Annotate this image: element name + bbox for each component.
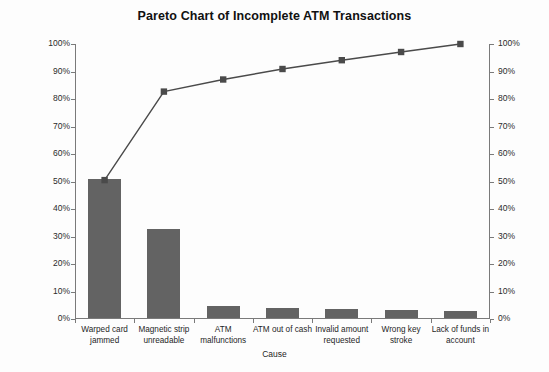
y-axis-right-tick (490, 99, 494, 100)
x-axis-category-label: Wrong key stroke (371, 325, 430, 346)
y-axis-left-tick-label: 100% (48, 39, 70, 48)
x-axis-category-label: Warped card jammed (75, 325, 134, 346)
y-axis-left-tick-label: 70% (53, 122, 70, 131)
y-axis-left-tick-label: 90% (53, 67, 70, 76)
y-axis-right-tick-label: 80% (498, 94, 515, 103)
y-axis-right-tick (490, 237, 494, 238)
cumulative-marker (457, 41, 463, 47)
y-axis-right-tick-label: 0% (498, 314, 510, 323)
cumulative-marker (279, 66, 285, 72)
x-axis-category-label: ATM malfunctions (194, 325, 253, 346)
pareto-chart: Pareto Chart of Incomplete ATM Transacti… (0, 0, 549, 372)
y-axis-right-tick (490, 72, 494, 73)
cumulative-markers (101, 41, 463, 183)
y-axis-left-tick-label: 0% (58, 314, 70, 323)
y-axis-left-tick-label: 50% (53, 177, 70, 186)
x-axis-tick (490, 319, 491, 323)
x-axis-category-label: Lack of funds in account (431, 325, 490, 346)
y-axis-right-tick-label: 20% (498, 259, 515, 268)
cumulative-line (105, 44, 461, 180)
y-axis-right-tick-label: 50% (498, 177, 515, 186)
y-axis-right-tick-label: 100% (498, 39, 520, 48)
y-axis-right-tick-label: 10% (498, 287, 515, 296)
y-axis-left-tick-label: 30% (53, 232, 70, 241)
x-axis-category-label: Invalid amount requested (312, 325, 371, 346)
x-axis-tick (194, 319, 195, 323)
y-axis-right-tick-label: 90% (498, 67, 515, 76)
x-axis-tick (371, 319, 372, 323)
cumulative-marker (101, 177, 107, 183)
x-axis-tick (312, 319, 313, 323)
x-axis-title: Cause (0, 349, 549, 359)
x-axis-tick (134, 319, 135, 323)
y-axis-left-tick-label: 40% (53, 204, 70, 213)
plot-area: 0%10%20%30%40%50%60%70%80%90%100% 0%10%2… (75, 44, 490, 319)
cumulative-marker (161, 88, 167, 94)
chart-title: Pareto Chart of Incomplete ATM Transacti… (0, 9, 549, 23)
y-axis-left-tick-label: 20% (53, 259, 70, 268)
y-axis-left-tick-label: 10% (53, 287, 70, 296)
y-axis-right-tick-label: 30% (498, 232, 515, 241)
y-axis-left-tick-label: 60% (53, 149, 70, 158)
cumulative-marker (398, 49, 404, 55)
y-axis-right-tick (490, 292, 494, 293)
y-axis-right-tick-label: 60% (498, 149, 515, 158)
x-axis-tick (253, 319, 254, 323)
y-axis-left-tick-label: 80% (53, 94, 70, 103)
x-axis-category-label: ATM out of cash (253, 325, 312, 336)
y-axis-right-tick (490, 182, 494, 183)
cumulative-marker (220, 76, 226, 82)
x-axis-tick (431, 319, 432, 323)
y-axis-right-tick (490, 264, 494, 265)
y-axis-right-tick-label: 40% (498, 204, 515, 213)
y-axis-right-tick (490, 127, 494, 128)
x-axis-tick (75, 319, 76, 323)
y-axis-right-tick-label: 70% (498, 122, 515, 131)
cumulative-marker (339, 57, 345, 63)
y-axis-right-tick (490, 154, 494, 155)
y-axis-right-tick (490, 44, 494, 45)
x-axis-category-label: Magnetic strip unreadable (134, 325, 193, 346)
cumulative-line-series (75, 44, 490, 319)
y-axis-right-tick (490, 209, 494, 210)
